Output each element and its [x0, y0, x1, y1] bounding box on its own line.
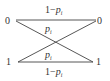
- output-node-0: 0: [97, 15, 102, 26]
- edge-label-0-to-0: 1−pi: [45, 4, 63, 16]
- edge-1-to-0: [18, 21, 96, 62]
- channel-diagram: 0 0 1 1 1−pi pi pi 1−pi: [0, 0, 110, 81]
- edge-0-to-1: [16, 21, 93, 62]
- input-node-1: 1: [6, 56, 11, 67]
- edge-label-0-to-1: pi: [44, 23, 52, 35]
- input-node-0: 0: [5, 15, 10, 26]
- edge-label-1-to-1: 1−pi: [45, 66, 63, 78]
- edge-label-1-to-0: pi: [44, 49, 52, 61]
- output-node-1: 1: [96, 56, 101, 67]
